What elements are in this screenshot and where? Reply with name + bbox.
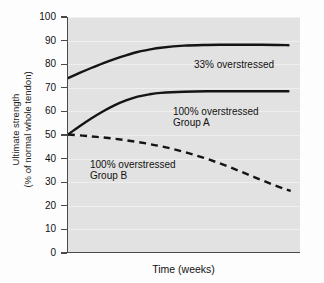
y-tick-label-90: 90	[30, 36, 56, 46]
y-tick-label-10: 10	[30, 224, 56, 234]
annotation-33-overstressed: 33% overstressed	[194, 59, 274, 71]
y-tick-label-40: 40	[30, 154, 56, 164]
plot-area: 33% overstressed 100% overstressed Group…	[67, 17, 300, 253]
y-tick-label-80: 80	[30, 59, 56, 69]
x-axis-title: Time (weeks)	[67, 263, 300, 275]
y-tick-label-70: 70	[30, 83, 56, 93]
annotation-group-b-line-2: Group B	[90, 170, 127, 182]
y-tick-label-50: 50	[30, 130, 56, 140]
y-tick-label-100: 100	[30, 12, 56, 22]
series-layer	[68, 17, 300, 252]
annotation-group-a-line-2: Group A	[173, 117, 210, 129]
y-tick-label-60: 60	[30, 106, 56, 116]
y-axis-title-line-1: Ultimate strength	[10, 71, 22, 187]
annotation-group-a-line-1: 100% overstressed	[173, 106, 259, 118]
y-tick-label-30: 30	[30, 177, 56, 187]
y-tick-label-0: 0	[30, 248, 56, 258]
annotation-group-b-line-1: 100% overstressed	[90, 159, 176, 171]
y-tick-label-20: 20	[30, 201, 56, 211]
chart-figure: Ultimate strength (% of normal whole ten…	[0, 0, 324, 283]
